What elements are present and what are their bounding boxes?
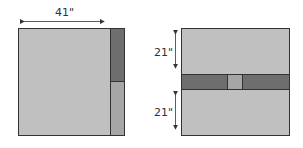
right-band-right bbox=[243, 75, 290, 90]
left-block bbox=[19, 29, 125, 136]
top-height-dimension: 21" bbox=[154, 34, 176, 68]
right-band-center-square bbox=[228, 75, 243, 90]
top-height-label: 21" bbox=[154, 46, 173, 59]
diagram-canvas: 41" 21" 21" bbox=[0, 0, 303, 148]
right-bottom-panel bbox=[182, 90, 290, 136]
right-block bbox=[182, 29, 290, 136]
bottom-height-dimension: 21" bbox=[154, 95, 176, 129]
left-main-panel bbox=[19, 29, 111, 136]
right-top-panel bbox=[182, 29, 290, 75]
width-label: 41" bbox=[55, 6, 74, 19]
width-dimension: 41" bbox=[24, 6, 104, 22]
left-strip-medium bbox=[111, 82, 125, 136]
bottom-height-label: 21" bbox=[154, 106, 173, 119]
left-strip-dark bbox=[111, 29, 125, 82]
right-band-left bbox=[182, 75, 228, 90]
